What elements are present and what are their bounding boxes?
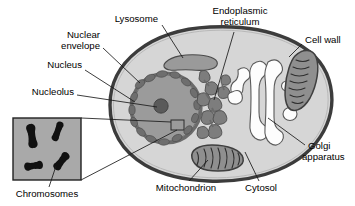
- cell-diagram: Lysosome Nuclear envelope Nucleus Nucleo…: [0, 0, 355, 206]
- label-er-line1: Endoplasmic: [213, 5, 268, 16]
- chromosome-inset-box: [13, 118, 81, 180]
- label-lysosome: Lysosome: [115, 13, 158, 24]
- label-chromosomes: Chromosomes: [16, 188, 79, 199]
- label-cytosol: Cytosol: [245, 182, 277, 193]
- label-nucleus: Nucleus: [47, 59, 82, 70]
- label-golgi-line2: apparatus: [302, 151, 345, 162]
- label-nuclear-envelope-line1: Nuclear: [67, 29, 101, 40]
- label-nuclear-envelope-line2: envelope: [61, 40, 100, 51]
- label-nucleolus: Nucleolus: [32, 86, 74, 97]
- cell-diagram-svg: Lysosome Nuclear envelope Nucleus Nucleo…: [0, 0, 355, 206]
- nucleolus: [154, 99, 168, 113]
- chromosome-inset: [13, 118, 81, 180]
- label-cell-wall: Cell wall: [305, 34, 341, 45]
- label-golgi-line1: Golgi: [308, 140, 330, 151]
- label-mitochondrion: Mitochondrion: [156, 182, 216, 193]
- label-er-line2: reticulum: [221, 16, 260, 27]
